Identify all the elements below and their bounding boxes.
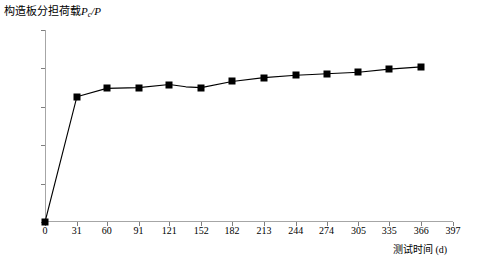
chart-title: 构造板分担荷载Pc/P bbox=[4, 2, 101, 19]
data-point-marker bbox=[166, 81, 173, 88]
chart-title-main: 构造板分担荷载 bbox=[4, 5, 81, 17]
data-point-marker bbox=[103, 85, 110, 92]
data-point-marker bbox=[229, 78, 236, 85]
series-line bbox=[45, 30, 453, 222]
chart-title-denominator: /P bbox=[91, 5, 101, 17]
data-point-marker bbox=[42, 219, 49, 226]
chart-title-variable: P bbox=[81, 5, 88, 17]
data-point-marker bbox=[135, 84, 142, 91]
data-point-marker bbox=[355, 69, 362, 76]
plot-area: 25.00%20.00%15.00%10.00%5.00%0 031609112… bbox=[45, 30, 453, 222]
x-axis-label: 397 bbox=[433, 225, 473, 236]
data-point-marker bbox=[292, 72, 299, 79]
data-point-marker bbox=[73, 93, 80, 100]
data-point-marker bbox=[386, 66, 393, 73]
data-point-marker bbox=[418, 63, 425, 70]
chart-container: 构造板分担荷载Pc/P 25.00%20.00%15.00%10.00%5.00… bbox=[0, 0, 497, 264]
data-point-marker bbox=[260, 74, 267, 81]
x-axis-title: 测试时间 (d) bbox=[393, 241, 447, 256]
data-point-marker bbox=[198, 84, 205, 91]
data-point-marker bbox=[323, 70, 330, 77]
